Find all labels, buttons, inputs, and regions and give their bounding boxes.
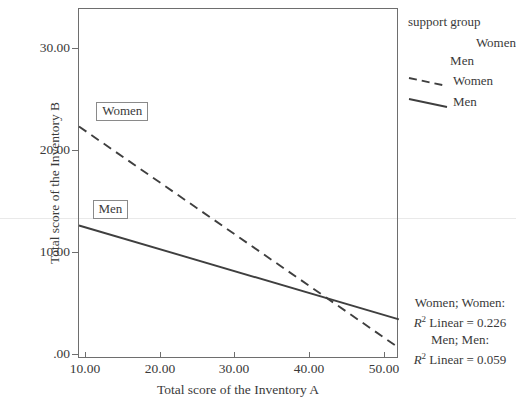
legend-marker-entry-women: Women <box>408 34 516 52</box>
series-line-men <box>79 226 399 320</box>
legend-marker-label-women: Women <box>476 35 516 51</box>
legend: support group Women Men Women Men <box>408 14 516 112</box>
legend-title: support group <box>408 14 516 30</box>
legend-line-entry-women: Women <box>408 70 516 91</box>
r-symbol: R <box>414 353 422 368</box>
r-squared-annotations: Women; Women: R2 Linear = 0.226 Men; Men… <box>404 294 516 369</box>
r-squared-value-men: R2 Linear = 0.059 <box>404 348 516 368</box>
chart-figure: 30.00 20.00 10.00 .00 10.00 20.00 30.00 … <box>0 0 516 418</box>
point-label-women: Women <box>96 102 148 121</box>
dashed-line-icon <box>408 76 448 86</box>
r-symbol: R <box>414 315 422 330</box>
r-squared-text-men: Linear = 0.059 <box>426 353 506 368</box>
r-squared-value-women: R2 Linear = 0.226 <box>404 311 516 331</box>
r-squared-group-men: Men; Men: <box>404 331 516 348</box>
legend-line-label-men: Men <box>453 94 477 110</box>
legend-line-entry-men: Men <box>408 91 516 112</box>
legend-marker-entry-men: Men <box>408 52 516 70</box>
series-line-women <box>79 127 399 348</box>
solid-line-icon <box>408 97 448 107</box>
point-label-men: Men <box>93 200 129 219</box>
legend-line-label-women: Women <box>453 73 493 89</box>
legend-marker-label-men: Men <box>450 53 474 69</box>
r-squared-group-women: Women; Women: <box>404 294 516 311</box>
r-squared-text-women: Linear = 0.226 <box>426 315 506 330</box>
